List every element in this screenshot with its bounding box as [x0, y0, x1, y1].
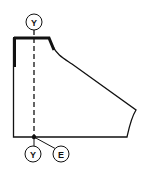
top-marker-label: Y — [31, 18, 37, 28]
pattern-diagram: Y Y E — [0, 0, 146, 174]
top-marker-y: Y — [26, 14, 42, 30]
bottom-marker-e: E — [53, 146, 69, 162]
bottom-marker-y: Y — [25, 146, 41, 162]
bottom-marker-e-label: E — [58, 150, 64, 160]
pattern-outline — [14, 38, 137, 137]
bottom-marker-y-label: Y — [30, 150, 36, 160]
